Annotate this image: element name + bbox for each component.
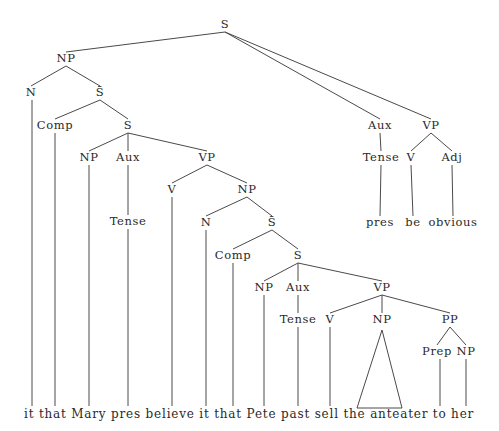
tree-node-label: NP bbox=[372, 312, 391, 326]
terminal-word: pres bbox=[366, 215, 394, 229]
tree-edge bbox=[206, 197, 247, 216]
tree-node-label: S̄ bbox=[268, 215, 276, 229]
tree-node-label: PP bbox=[442, 312, 459, 326]
tree-edge bbox=[452, 165, 453, 216]
tree-edge bbox=[264, 263, 298, 281]
tree-node-label: N bbox=[26, 85, 37, 99]
tree-edge bbox=[450, 327, 466, 345]
tree-node-label: NP bbox=[237, 182, 256, 196]
tree-edge bbox=[233, 230, 272, 249]
tree-edge bbox=[207, 165, 247, 183]
tree-nodes: SNPNS̄CompSNPAuxVPTenseVNPNS̄CompSNPAuxV… bbox=[26, 17, 478, 358]
tree-node-label: Prep bbox=[422, 344, 452, 358]
tree-edge bbox=[100, 100, 128, 119]
tree-edge bbox=[411, 133, 431, 151]
triangle-shape bbox=[357, 330, 402, 408]
tree-edge bbox=[431, 133, 452, 151]
tree-node-label: V bbox=[406, 150, 416, 164]
tree-edge bbox=[89, 133, 128, 151]
tree-node-label: NP bbox=[56, 51, 75, 65]
tree-node-label: V bbox=[325, 312, 335, 326]
tree-edge bbox=[225, 32, 431, 119]
tree-edge bbox=[382, 295, 450, 313]
tree-edge bbox=[298, 263, 382, 281]
tree-node-label: Comp bbox=[215, 248, 251, 262]
tree-edge bbox=[247, 197, 272, 216]
tree-node-label: S bbox=[294, 248, 302, 262]
tree-node-label: Aux bbox=[115, 150, 140, 164]
tree-edge bbox=[66, 32, 225, 52]
tree-node-label: Adj bbox=[440, 150, 462, 164]
tree-node-label: VP bbox=[197, 150, 215, 164]
tree-node-label: Comp bbox=[37, 118, 73, 132]
tree-edge bbox=[437, 327, 450, 345]
tree-node-label: S bbox=[221, 17, 229, 31]
tree-edge bbox=[31, 66, 66, 86]
tree-edge bbox=[66, 66, 100, 86]
np-triangle bbox=[357, 330, 402, 408]
tree-node-label: NP bbox=[254, 280, 273, 294]
tree-node-label: Aux bbox=[285, 280, 310, 294]
tree-edge bbox=[380, 133, 381, 151]
tree-edge bbox=[411, 165, 413, 216]
tree-edge bbox=[55, 100, 100, 119]
syntax-tree-diagram: SNPNS̄CompSNPAuxVPTenseVNPNS̄CompSNPAuxV… bbox=[0, 0, 499, 431]
tree-node-label: NP bbox=[79, 150, 98, 164]
tree-edge bbox=[128, 133, 207, 151]
tree-node-label: Tense bbox=[110, 214, 147, 228]
terminal-sentence: it that Mary pres believe it that Pete p… bbox=[24, 407, 474, 421]
tree-node-label: Tense bbox=[363, 150, 400, 164]
tree-edge bbox=[272, 230, 298, 249]
tree-node-label: S̄ bbox=[96, 85, 104, 99]
tree-node-label: VP bbox=[421, 118, 439, 132]
terminal-word: be bbox=[405, 215, 420, 229]
tree-edge bbox=[172, 165, 207, 183]
tree-node-label: N bbox=[201, 215, 212, 229]
tree-node-label: S bbox=[124, 118, 132, 132]
tree-node-label: NP bbox=[456, 344, 475, 358]
tree-node-label: VP bbox=[372, 280, 390, 294]
tree-edge bbox=[225, 32, 380, 119]
tree-edge bbox=[380, 165, 381, 216]
terminal-word: obvious bbox=[429, 215, 478, 229]
tree-node-label: Tense bbox=[280, 312, 317, 326]
tree-node-label: Aux bbox=[367, 118, 392, 132]
tree-node-label: V bbox=[167, 182, 177, 196]
tree-edge bbox=[330, 295, 382, 313]
terminal-string: it that Mary pres believe it that Pete p… bbox=[24, 407, 474, 421]
